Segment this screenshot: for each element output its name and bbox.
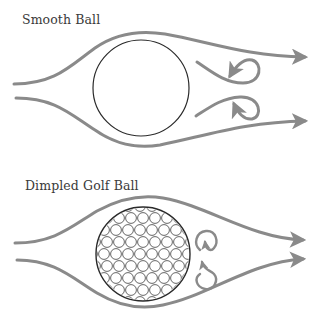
golf-ball-panel xyxy=(15,197,303,308)
dimple xyxy=(102,285,113,296)
dimple xyxy=(75,297,86,308)
dimple xyxy=(102,213,113,224)
wake-vortex-top xyxy=(196,231,216,250)
dimple xyxy=(78,261,89,272)
dimple xyxy=(87,297,98,308)
dimple xyxy=(78,237,89,248)
dimple xyxy=(198,213,209,224)
dimple xyxy=(174,213,185,224)
dimple xyxy=(75,201,86,212)
wake-vortex-top xyxy=(197,60,259,83)
dimple xyxy=(174,285,185,296)
dimple xyxy=(87,273,98,284)
dimple xyxy=(186,213,197,224)
dimple xyxy=(87,225,98,236)
wake-vortex-bottom xyxy=(196,97,259,119)
airflow-diagram xyxy=(0,0,320,322)
dimple xyxy=(75,225,86,236)
smooth-ball-panel xyxy=(14,33,305,147)
smooth-ball xyxy=(93,40,189,136)
golf-ball xyxy=(96,207,190,301)
dimple xyxy=(75,249,86,260)
dimple xyxy=(87,201,98,212)
wake-vortex-bottom xyxy=(197,262,216,289)
dimple xyxy=(195,297,206,308)
